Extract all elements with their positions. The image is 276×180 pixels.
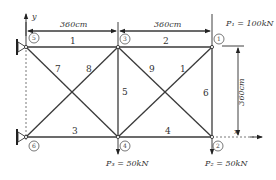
dimension-height: 360cm: [222, 46, 246, 135]
svg-text:2: 2: [216, 142, 220, 149]
member-label-9: 9: [149, 64, 155, 74]
member-label-1: 1: [70, 36, 76, 46]
truss-members: [26, 47, 212, 137]
x-axis: x: [216, 127, 262, 137]
truss-diagram: y x 360cm 360cm 360cm: [0, 0, 276, 180]
member-label-3: 3: [72, 126, 78, 136]
member-label-2: 2: [163, 36, 169, 46]
dimension-top: 360cm 360cm: [26, 14, 212, 47]
y-axis-label: y: [31, 12, 37, 21]
member-label-4: 4: [165, 126, 171, 136]
svg-text:4: 4: [123, 142, 127, 149]
node-6: 6: [29, 141, 39, 151]
svg-text:3: 3: [123, 35, 127, 42]
svg-text:5: 5: [32, 34, 36, 41]
node-2: 2: [213, 141, 223, 151]
load-p2: P₂ = 50kN: [204, 139, 248, 168]
member-label-5: 5: [122, 87, 128, 97]
dimension-height-label: 360cm: [237, 78, 246, 106]
node-4: 4: [120, 141, 130, 151]
joints: [24, 45, 213, 138]
load-p3-label: P₃ = 50kN: [105, 159, 149, 168]
member-label-8: 8: [86, 64, 92, 74]
load-p1: P₁ = 100kN: [225, 19, 274, 28]
member-label-7: 7: [55, 64, 61, 74]
member-label-10: 1: [180, 64, 186, 74]
node-1: 1: [214, 34, 224, 44]
svg-text:6: 6: [32, 142, 36, 149]
node-3: 3: [120, 34, 130, 44]
member-label-6: 6: [203, 88, 209, 98]
svg-text:1: 1: [217, 35, 221, 42]
load-p1-label: P₁ = 100kN: [225, 19, 274, 28]
dimension-right-span: 360cm: [154, 20, 182, 29]
load-p2-label: P₂ = 50kN: [204, 159, 248, 168]
dimension-left-span: 360cm: [60, 20, 88, 29]
node-5: 5: [29, 33, 39, 43]
